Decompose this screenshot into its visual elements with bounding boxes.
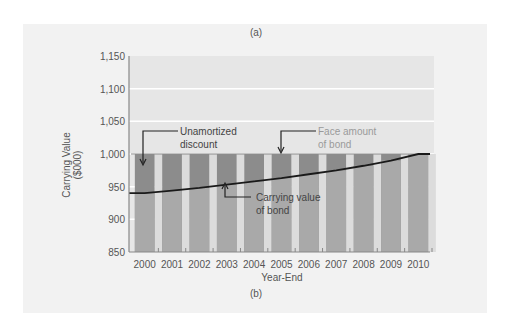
bar-carrying-value <box>381 161 401 252</box>
bar-gap <box>291 154 299 252</box>
y-tick-label: 1,100 <box>100 84 125 95</box>
bar-gap <box>182 154 190 252</box>
bar-carrying-value <box>326 170 346 252</box>
y-tick-label: 1,000 <box>100 149 125 160</box>
bar-carrying-value <box>135 193 155 252</box>
bar-carrying-value <box>299 174 319 252</box>
x-tick-label: 2003 <box>216 259 239 270</box>
bond-carrying-value-chart: 8509009501,0001,0501,1001,15020002001200… <box>0 0 513 330</box>
x-tick-label: 2007 <box>325 259 348 270</box>
y-tick-label: 1,050 <box>100 116 125 127</box>
bar-gap <box>264 154 272 252</box>
y-axis-label: Carrying Value($000) <box>61 132 83 198</box>
bar-gap <box>319 154 327 252</box>
bar-gap <box>209 154 217 252</box>
bar-carrying-value <box>162 191 182 252</box>
x-tick-label: 2004 <box>243 259 266 270</box>
bar-gap <box>373 154 381 252</box>
x-tick-label: 2005 <box>270 259 293 270</box>
bar-carrying-value <box>217 185 237 252</box>
x-tick-label: 2006 <box>298 259 321 270</box>
x-axis-label: Year-End <box>261 272 302 283</box>
y-tick-label: 1,150 <box>100 51 125 62</box>
bar-gap <box>428 154 436 252</box>
bar-gap <box>401 154 409 252</box>
x-tick-label: 2009 <box>380 259 403 270</box>
x-tick-label: 2001 <box>161 259 184 270</box>
y-tick-label: 900 <box>108 214 125 225</box>
x-tick-label: 2010 <box>407 259 430 270</box>
x-tick-label: 2002 <box>188 259 211 270</box>
bar-carrying-value <box>354 166 374 252</box>
bar-carrying-value <box>408 154 428 252</box>
bar-gap <box>237 154 245 252</box>
y-tick-label: 850 <box>108 247 125 258</box>
x-tick-label: 2000 <box>134 259 157 270</box>
bar-carrying-value <box>190 188 210 252</box>
x-tick-label: 2008 <box>352 259 375 270</box>
y-tick-label: 950 <box>108 182 125 193</box>
bar-gap <box>155 154 163 252</box>
